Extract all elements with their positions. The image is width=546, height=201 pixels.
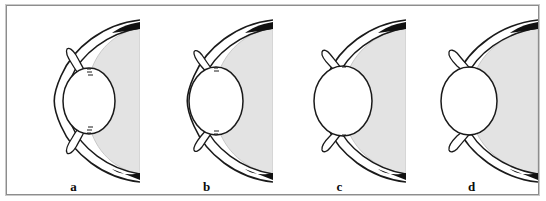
eye-cross-section-a xyxy=(7,6,140,196)
panel-label-c: c xyxy=(273,180,406,193)
panel-label-a: a xyxy=(7,180,140,193)
eye-cross-section-d xyxy=(405,6,538,196)
eye-cross-section-b xyxy=(140,6,273,196)
crystalline-lens-a xyxy=(63,68,115,134)
figure-frame: a b c xyxy=(6,5,539,195)
crystalline-lens-b xyxy=(189,67,243,135)
panel-b: b xyxy=(140,6,273,196)
crystalline-lens-c xyxy=(314,66,372,136)
panel-label-d: d xyxy=(405,180,538,193)
panel-label-b: b xyxy=(140,180,273,193)
eye-cross-section-c xyxy=(273,6,406,196)
panel-c: c xyxy=(273,6,406,196)
crystalline-lens-d xyxy=(441,67,497,135)
panel-d: d xyxy=(405,6,538,196)
panel-a: a xyxy=(7,6,140,196)
